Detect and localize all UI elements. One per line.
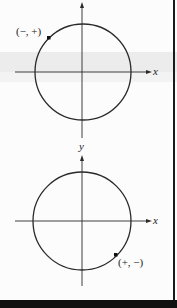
unit-circle-diagrams [0,0,177,308]
top-point-marker [47,36,51,40]
top-y-arrow-icon [80,2,84,8]
figure-page: x y (−, +) y x (+, −) [0,0,177,308]
top-y-axis-label-bottom: y [79,141,84,152]
bottom-x-arrow-icon [146,219,152,223]
page-bottom-bar [0,300,177,308]
top-x-axis-label: x [153,66,158,77]
bottom-x-axis-label: x [153,215,158,226]
bottom-point-marker [114,253,118,257]
top-x-arrow-icon [146,70,152,74]
bottom-point-label: (+, −) [118,257,143,268]
page-right-border [173,0,175,300]
top-diagram [15,2,152,138]
top-point-label: (−, +) [16,26,41,37]
bottom-y-arrow-icon [80,155,84,161]
